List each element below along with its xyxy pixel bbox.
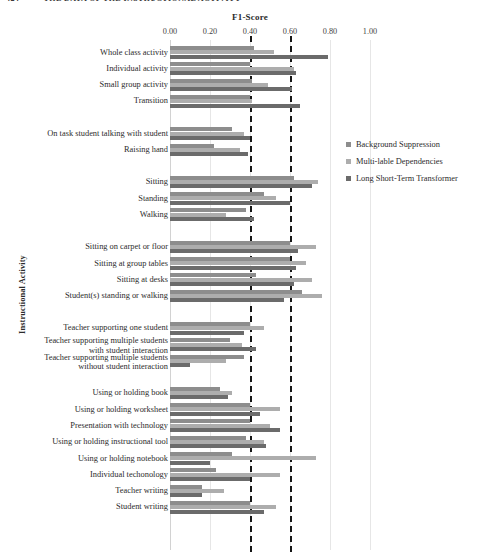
x-tick-label: 0.60 [283,27,297,36]
category-label: Student(s) standing or walking [0,291,168,301]
f1-score-bar-chart: F1-Score 0.000.200.400.600.801.00 Instru… [0,0,494,557]
category-label: Sitting at desks [0,275,168,285]
bar [170,184,312,188]
bar [170,217,254,221]
bar [170,55,328,59]
bar [170,152,248,156]
legend-swatch [346,176,351,181]
chart-legend: Background SuppressionMulti-lable Depend… [346,136,492,187]
bar [170,71,296,75]
category-label: Using or holding notebook [0,454,168,464]
category-label: Teacher supporting multiple students wit… [0,353,168,372]
bar [170,510,264,514]
bar [170,282,294,286]
bar [170,136,250,140]
bar [170,298,284,302]
bar [170,428,280,432]
x-axis-tick-labels: 0.000.200.400.600.801.00 [0,27,494,39]
legend-item: Long Short-Term Transformer [346,170,492,186]
legend-item: Multi-lable Dependencies [346,153,492,169]
gridline [370,40,371,550]
bar [170,104,300,108]
bar [170,331,244,335]
category-label: Small group activity [0,80,168,90]
category-label: Individual activity [0,64,168,74]
category-label: Presentation with technology [0,421,168,431]
category-label: Transition [0,96,168,106]
legend-label: Long Short-Term Transformer [356,174,458,183]
category-label: Individual techonology [0,470,168,480]
bar [170,87,292,91]
category-label: On task student talking with student [0,129,168,139]
x-tick-label: 1.00 [363,27,377,36]
bar [170,412,260,416]
bar [170,477,250,481]
category-label: Sitting at group tables [0,259,168,269]
chart-title: F1-Score [232,12,352,22]
category-label: Standing [0,194,168,204]
bar [170,363,190,367]
category-label: Whole class activity [0,48,168,58]
gridline [330,40,331,550]
legend-label: Multi-lable Dependencies [356,157,443,166]
category-label: Using or holding instructional tool [0,437,168,447]
bar [170,444,266,448]
legend-swatch [346,159,351,164]
category-label: Teacher supporting one student [0,323,168,333]
category-label: Student writing [0,502,168,512]
bar [170,249,298,253]
category-label: Sitting on carpet or floor [0,242,168,252]
legend-item: Background Suppression [346,136,492,152]
category-label: Walking [0,210,168,220]
bar [170,201,290,205]
category-label: Sitting [0,177,168,187]
category-label: Teacher writing [0,486,168,496]
bar [170,461,210,465]
bar [170,347,256,351]
category-label: Using or holding worksheet [0,405,168,415]
bar [170,395,228,399]
x-tick-label: 0.00 [163,27,177,36]
legend-swatch [346,142,351,147]
legend-label: Background Suppression [356,140,440,149]
x-tick-label: 0.20 [203,27,217,36]
bar [170,266,296,270]
x-tick-label: 0.80 [323,27,337,36]
bar [170,493,202,497]
category-label: Using or holding book [0,388,168,398]
x-tick-label: 0.40 [243,27,257,36]
category-label: Raising hand [0,145,168,155]
